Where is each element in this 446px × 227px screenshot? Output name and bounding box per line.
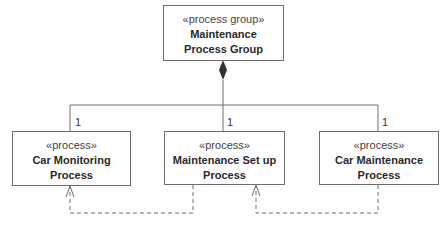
stereotype-label: «process» [13,138,130,153]
dependency-setup-to-monitoring [70,185,193,213]
process-name: Car Monitoring Process [13,153,130,183]
process-box-car-monitoring[interactable]: «process» Car Monitoring Process [12,131,131,186]
stereotype-label: «process group» [164,12,283,27]
process-name: Maintenance Set up Process [165,153,284,183]
multiplicity-label: 1 [382,116,388,128]
multiplicity-label: 1 [75,116,81,128]
composition-diamond-icon [219,60,227,80]
process-name: Car Maintenance Process [320,153,438,183]
process-group-name: Maintenance Process Group [164,27,283,57]
dependency-maintenance-to-setup [256,185,378,213]
stereotype-label: «process» [320,138,438,153]
process-box-car-maintenance[interactable]: «process» Car Maintenance Process [319,131,439,185]
multiplicity-label: 1 [227,116,233,128]
process-box-maintenance-setup[interactable]: «process» Maintenance Set up Process [164,131,285,185]
stereotype-label: «process» [165,138,284,153]
process-group-box[interactable]: «process group» Maintenance Process Grou… [163,5,284,61]
